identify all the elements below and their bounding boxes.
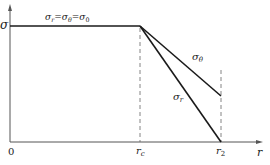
sigma-r-label: σr	[173, 92, 183, 104]
rc-tick-label: rc	[136, 146, 145, 158]
y-axis-arrow-icon	[8, 4, 12, 11]
stress-distribution-diagram: σ σr=σθ=σ0 σθ σr 0 rc r2 r	[0, 0, 270, 165]
x-axis-arrow-icon	[256, 140, 263, 144]
diagram-canvas	[0, 0, 270, 165]
x-axis-label: r	[257, 147, 262, 158]
sigma-theta-line	[140, 26, 221, 96]
y-axis-label: σ	[0, 19, 8, 31]
sigma-r-line	[140, 26, 221, 142]
plateau-label: σr=σθ=σ0	[45, 13, 89, 23]
origin-label: 0	[8, 147, 14, 157]
r2-tick-label: r2	[216, 146, 225, 158]
sigma-theta-label: σθ	[192, 52, 203, 64]
